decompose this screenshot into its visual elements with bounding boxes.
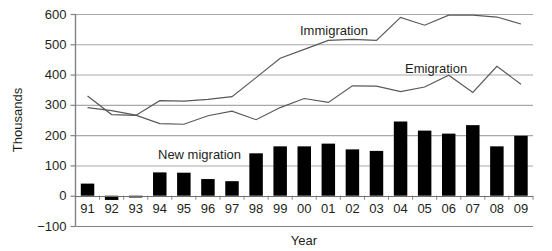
x-tick-label: 96 — [201, 201, 215, 216]
x-tick-label: 03 — [369, 201, 383, 216]
bar — [201, 179, 214, 196]
bar — [418, 131, 431, 196]
y-tick-label: 500 — [45, 37, 67, 52]
y-tick-label: 200 — [45, 128, 67, 143]
bar — [298, 146, 311, 195]
y-tick-label: 0 — [59, 188, 66, 203]
x-tick-label: 97 — [225, 201, 239, 216]
x-tick-label: 94 — [153, 201, 167, 216]
x-tick-label: 06 — [441, 201, 455, 216]
x-tick-label: 02 — [345, 201, 359, 216]
bar — [346, 149, 359, 195]
x-tick-label: 92 — [104, 201, 118, 216]
bar — [370, 151, 383, 196]
new-migration-annotation: New migration — [158, 147, 241, 162]
x-tick-label: 99 — [273, 201, 287, 216]
y-tick-label: 300 — [45, 97, 67, 112]
emigration-annotation: Emigration — [405, 61, 467, 76]
x-tick-label: 07 — [466, 201, 480, 216]
bar — [322, 144, 335, 196]
y-tick-label: 100 — [45, 158, 67, 173]
immigration-annotation: Immigration — [300, 23, 368, 38]
bar — [81, 184, 94, 196]
bar — [153, 172, 166, 195]
x-tick-label: 98 — [249, 201, 263, 216]
bar — [490, 146, 503, 195]
x-tick-label: 00 — [297, 201, 311, 216]
bar — [466, 125, 479, 196]
migration-chart: −1000100200300400500600 9192939495969798… — [0, 0, 552, 251]
chart-canvas: −1000100200300400500600 9192939495969798… — [0, 0, 552, 251]
bar — [225, 181, 238, 196]
x-tick-label: 05 — [417, 201, 431, 216]
bar — [177, 173, 190, 196]
y-axis-title: Thousands — [10, 87, 25, 152]
x-tick-label: 91 — [80, 201, 94, 216]
y-tick-marks-group — [71, 15, 76, 227]
y-tick-labels-group: −1000100200300400500600 — [37, 7, 66, 234]
y-tick-label: 600 — [45, 7, 67, 22]
x-tick-labels-group: 91929394959697989900010203040506070809 — [80, 201, 528, 216]
x-tick-label: 01 — [321, 201, 335, 216]
bar — [442, 134, 455, 196]
bar — [249, 153, 262, 195]
bar — [394, 122, 407, 196]
bars-group — [81, 122, 528, 200]
x-tick-label: 93 — [128, 201, 142, 216]
x-tick-label: 04 — [393, 201, 407, 216]
x-tick-label: 95 — [177, 201, 191, 216]
x-tick-label: 09 — [514, 201, 528, 216]
x-tick-label: 08 — [490, 201, 504, 216]
y-tick-label: −100 — [37, 219, 66, 234]
x-axis-title: Year — [291, 233, 318, 248]
y-tick-label: 400 — [45, 67, 67, 82]
bar — [514, 136, 527, 196]
bar — [273, 146, 286, 195]
